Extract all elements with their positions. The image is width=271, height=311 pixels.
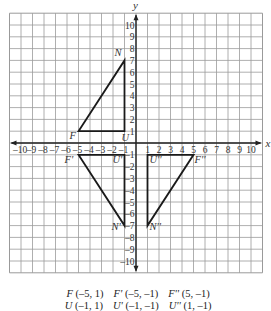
y-tick-label: –3 — [124, 174, 135, 184]
x-tick-label: –8 — [37, 145, 48, 155]
x-tick-label: –10 — [12, 145, 28, 155]
x-tick-label: –9 — [26, 145, 37, 155]
vertex-label: N' — [111, 221, 122, 232]
y-tick-label: 8 — [130, 44, 135, 54]
point-name: U'' — [169, 300, 181, 311]
vertex-label: F' — [64, 154, 74, 165]
caption-item: U'' (1, –1) — [169, 300, 212, 311]
x-tick-label: 10 — [246, 145, 256, 155]
vertex-label: F'' — [194, 154, 207, 165]
y-tick-label: –7 — [124, 221, 135, 231]
x-tick-label: 9 — [237, 145, 242, 155]
y-tick-label: –1 — [124, 150, 135, 160]
vertex-label: N — [114, 47, 123, 58]
x-tick-label: 3 — [168, 145, 173, 155]
y-tick-label: –6 — [124, 209, 135, 219]
y-axis-down-arrow-icon — [134, 266, 139, 272]
x-tick-label: –4 — [83, 145, 94, 155]
caption-item: U' (–1, –1) — [113, 300, 159, 311]
y-axis-label: y — [132, 0, 138, 11]
y-tick-label: 9 — [130, 32, 135, 42]
y-tick-label: 6 — [130, 68, 135, 78]
y-tick-label: 3 — [130, 103, 135, 113]
vertex-label: U'' — [150, 154, 163, 165]
y-tick-label: 7 — [130, 56, 135, 66]
x-tick-label: –7 — [49, 145, 60, 155]
vertex-label: F — [69, 130, 77, 141]
axes: xy — [11, 0, 271, 272]
y-tick-label: 2 — [130, 115, 135, 125]
x-tick-label: 7 — [214, 145, 219, 155]
point-coords: (–1, 1) — [75, 300, 103, 311]
y-tick-label: –4 — [124, 186, 135, 196]
point-coords: (1, –1) — [183, 300, 211, 311]
point-coords: (–1, –1) — [125, 300, 158, 311]
triangles: FNUF'N'U'U''F''N'' — [64, 47, 207, 231]
x-axis-label: x — [265, 137, 271, 149]
y-tick-label: –5 — [124, 198, 135, 208]
caption-item: U (–1, 1) — [65, 300, 103, 311]
y-tick-label: –8 — [124, 233, 135, 243]
x-tick-label: 4 — [180, 145, 185, 155]
x-tick-label: 8 — [226, 145, 231, 155]
vertex-label: N'' — [149, 221, 162, 232]
x-tick-label: –3 — [95, 145, 106, 155]
y-tick-label: –9 — [124, 245, 135, 255]
caption-line-2: U (–1, 1)U' (–1, –1)U'' (1, –1) — [0, 289, 271, 311]
x-axis-right-arrow-icon — [256, 141, 262, 146]
point-name: U — [65, 300, 73, 311]
point-name: U' — [113, 300, 123, 311]
y-tick-label: 4 — [130, 91, 135, 101]
y-axis-up-arrow-icon — [134, 14, 139, 20]
y-tick-label: –10 — [119, 257, 135, 267]
y-tick-label: 1 — [130, 127, 135, 137]
y-tick-label: –2 — [124, 162, 135, 172]
vertex-label: U' — [113, 154, 124, 165]
x-tick-label: –5 — [72, 145, 83, 155]
y-tick-label: 10 — [125, 21, 135, 31]
y-tick-label: 5 — [130, 80, 135, 90]
